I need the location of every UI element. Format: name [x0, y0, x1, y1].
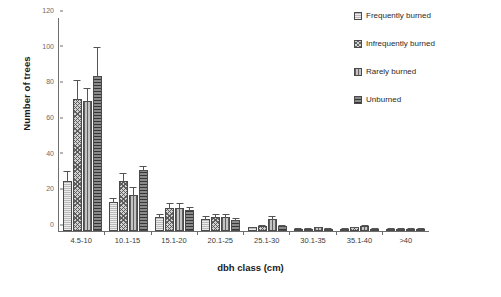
error-bar	[249, 227, 256, 229]
bar[interactable]	[350, 227, 359, 231]
error-bar	[222, 214, 229, 218]
bar[interactable]	[340, 229, 349, 231]
bar[interactable]	[268, 219, 277, 231]
error-bar-stem	[123, 173, 124, 182]
bar[interactable]	[304, 229, 313, 231]
bar[interactable]	[248, 227, 257, 231]
error-bar	[341, 228, 348, 230]
bar[interactable]	[231, 220, 240, 231]
error-bar	[140, 166, 147, 171]
bar-group	[244, 18, 290, 231]
y-axis-tick-80: 80	[46, 78, 59, 85]
x-tick-mark	[243, 231, 244, 235]
error-bar-cap	[222, 214, 229, 215]
bar-group	[105, 18, 151, 231]
error-bar	[166, 203, 173, 208]
y-axis-tick-20: 20	[46, 185, 59, 192]
legend-item[interactable]: Rarely burned	[354, 66, 499, 77]
error-bar-stem	[77, 80, 78, 100]
bar[interactable]	[83, 101, 92, 231]
error-bar-cap	[361, 225, 368, 226]
x-tick-mark	[289, 231, 290, 235]
bar[interactable]	[139, 170, 148, 231]
y-axis-title: Number of trees	[21, 24, 32, 164]
legend-item[interactable]: Unburned	[354, 94, 499, 105]
error-bar-cap	[94, 47, 101, 48]
error-bar	[315, 227, 322, 229]
error-bar-cap	[186, 207, 193, 208]
error-bar	[110, 198, 117, 203]
y-axis-tick-60: 60	[46, 114, 59, 121]
bar[interactable]	[129, 195, 138, 231]
bar-group	[59, 18, 105, 231]
bar[interactable]	[155, 217, 164, 231]
bar[interactable]	[165, 208, 174, 231]
y-axis-tick-100: 100	[42, 42, 59, 49]
x-axis-tick-label: 35.1-40	[336, 236, 382, 252]
bar[interactable]	[370, 229, 379, 231]
bar[interactable]	[416, 229, 425, 231]
legend: Frequently burnedInfrequently burnedRare…	[354, 10, 499, 122]
error-bar-cap	[249, 227, 256, 228]
legend-swatch-icon	[354, 68, 362, 76]
bar[interactable]	[73, 99, 82, 231]
bar[interactable]	[211, 217, 220, 231]
bar[interactable]	[201, 219, 210, 231]
bar[interactable]	[258, 226, 267, 231]
bar[interactable]	[109, 202, 118, 231]
x-tick-mark	[197, 231, 198, 235]
error-bar-cap	[305, 228, 312, 229]
bar[interactable]	[221, 217, 230, 231]
error-bar-cap	[176, 203, 183, 204]
error-bar	[371, 228, 378, 230]
error-bar	[295, 228, 302, 230]
bar[interactable]	[360, 226, 369, 231]
bar[interactable]	[294, 229, 303, 231]
error-bar	[351, 227, 358, 229]
bar[interactable]	[324, 229, 333, 231]
bar[interactable]	[278, 226, 287, 231]
error-bar	[259, 225, 266, 227]
x-tick-mark	[151, 231, 152, 235]
error-bar-cap	[341, 228, 348, 229]
error-bar	[361, 225, 368, 227]
y-axis-tick-0: 0	[50, 221, 59, 228]
x-axis-tick-label: 25.1-30	[244, 236, 290, 252]
x-tick-mark	[382, 231, 383, 235]
error-bar-cap	[110, 198, 117, 199]
error-bar-cap	[387, 228, 394, 229]
bar[interactable]	[185, 210, 194, 231]
bar[interactable]	[406, 229, 415, 231]
bar[interactable]	[119, 181, 128, 231]
error-bar	[64, 171, 71, 182]
bar[interactable]	[314, 227, 323, 231]
error-bar-cap	[84, 88, 91, 89]
error-bar	[387, 228, 394, 230]
bar[interactable]	[396, 229, 405, 231]
bar[interactable]	[63, 181, 72, 231]
error-bar-cap	[140, 166, 147, 167]
x-tick-mark	[104, 231, 105, 235]
legend-item-label: Unburned	[366, 95, 401, 104]
error-bar-cap	[259, 225, 266, 226]
error-bar-cap	[120, 173, 127, 174]
error-bar-cap	[74, 80, 81, 81]
x-axis-tick-label: 15.1-20	[151, 236, 197, 252]
error-bar	[417, 228, 424, 230]
error-bar	[202, 216, 209, 220]
legend-swatch-icon	[354, 12, 362, 20]
error-bar-cap	[130, 187, 137, 188]
error-bar-cap	[371, 228, 378, 229]
error-bar	[212, 214, 219, 218]
bar[interactable]	[386, 229, 395, 231]
legend-item-label: Infrequently burned	[366, 39, 435, 48]
error-bar	[94, 47, 101, 77]
y-axis-tick-40: 40	[46, 149, 59, 156]
legend-item-label: Rarely burned	[366, 67, 416, 76]
bar[interactable]	[93, 76, 102, 231]
legend-item[interactable]: Infrequently burned	[354, 38, 499, 49]
bar[interactable]	[175, 208, 184, 231]
x-axis-tick-label: >40	[383, 236, 429, 252]
legend-item[interactable]: Frequently burned	[354, 10, 499, 21]
error-bar	[84, 88, 91, 102]
